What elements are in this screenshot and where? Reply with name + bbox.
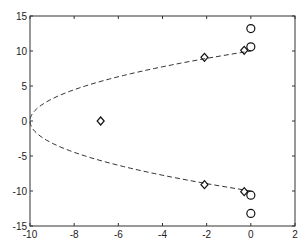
x-tick-label: 0 <box>248 229 254 240</box>
y-tick-label: 0 <box>21 116 27 127</box>
y-tick-label: 10 <box>16 46 28 57</box>
y-tick-label: -5 <box>18 151 27 162</box>
x-tick-label: -4 <box>158 229 167 240</box>
y-tick-label: 15 <box>16 11 28 22</box>
x-tick-label: 2 <box>292 229 298 240</box>
x-tick-label: -6 <box>114 229 123 240</box>
chart: -10-8-6-4-202-15-10-5051015 <box>0 0 305 245</box>
y-tick-label: -15 <box>13 221 28 232</box>
x-tick-label: -2 <box>202 229 211 240</box>
y-tick-label: 5 <box>21 81 27 92</box>
x-tick-label: -8 <box>70 229 79 240</box>
y-tick-label: -10 <box>13 186 28 197</box>
